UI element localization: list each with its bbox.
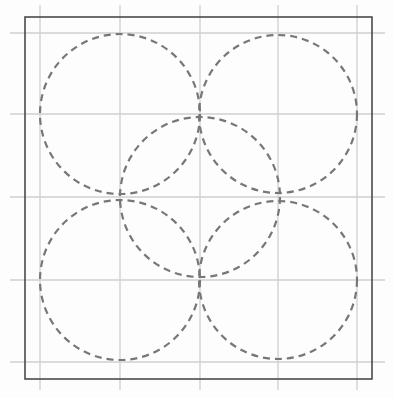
outer-border: [25, 17, 372, 379]
dashed-circle-grid-diagram: [0, 0, 394, 398]
grid-lines: [10, 5, 385, 390]
diagram-canvas: [0, 0, 394, 398]
